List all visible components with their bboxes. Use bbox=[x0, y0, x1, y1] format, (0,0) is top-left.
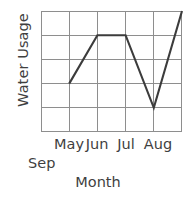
x-tick-label-aug: Aug bbox=[144, 135, 172, 154]
x-tick-label-may: May bbox=[54, 135, 84, 154]
plot-svg bbox=[41, 11, 182, 132]
x-axis-title: Month bbox=[0, 174, 196, 190]
x-tick-label-jun: Jun bbox=[86, 135, 109, 154]
x-tick-label-sep: Sep bbox=[28, 154, 55, 173]
horizontal-gridlines bbox=[41, 35, 182, 108]
y-axis-title: Water Usage bbox=[15, 0, 31, 130]
x-tick-label-jul: Jul bbox=[117, 135, 135, 154]
plot-area bbox=[41, 11, 182, 132]
line-chart-figure: Water Usage May Jun Jul Aug Sep Month bbox=[0, 0, 196, 200]
plot-border bbox=[42, 12, 182, 132]
vertical-gridlines bbox=[69, 11, 154, 132]
